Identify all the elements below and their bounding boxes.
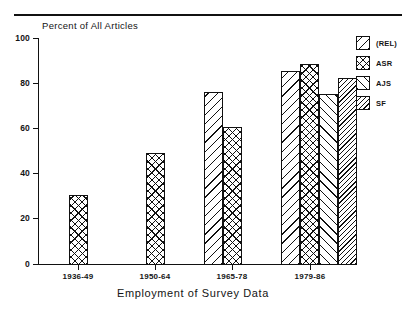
legend-label-sf: SF (376, 99, 386, 108)
x-axis-title: Employment of Survey Data (38, 287, 348, 299)
x-tick-label-1936-49: 1936-49 (63, 272, 94, 281)
legend-swatch-rel-icon (356, 36, 370, 50)
y-tick-60 (33, 128, 39, 129)
y-tick-label-80: 80 (6, 78, 30, 88)
y-axis-line (38, 38, 39, 265)
bar-1979-86-rel (281, 71, 300, 265)
legend-swatch-asr-icon (356, 56, 370, 70)
x-tick-label-1979-86: 1979-86 (295, 272, 326, 281)
y-tick-100 (33, 38, 39, 39)
y-tick-label-0: 0 (6, 259, 30, 269)
top-rule-divider (14, 14, 402, 16)
legend-label-ajs: AJS (376, 79, 391, 88)
chart-title: Percent of All Articles (42, 20, 138, 31)
y-tick-40 (33, 173, 39, 174)
x-tick-label-1950-64: 1950-64 (140, 272, 171, 281)
bar-1979-86-asr (300, 64, 319, 265)
bar-1965-78-asr (223, 127, 242, 265)
y-tick-label-20: 20 (6, 213, 30, 223)
legend-label-rel: (REL) (376, 39, 397, 48)
legend-swatch-ajs-icon (356, 76, 370, 90)
bar-1979-86-sf (338, 78, 357, 265)
bar-chart-figure: Percent of All Articles 100 80 60 40 20 … (0, 0, 416, 316)
bar-1936-49-asr (69, 195, 88, 265)
x-tick-label-1965-78: 1965-78 (217, 272, 248, 281)
bar-1965-78-rel (204, 92, 223, 265)
bar-1950-64-asr (146, 153, 165, 265)
legend-swatch-sf-icon (356, 96, 370, 110)
y-tick-label-40: 40 (6, 168, 30, 178)
y-tick-80 (33, 83, 39, 84)
bar-1979-86-ajs (319, 94, 338, 265)
y-tick-label-100: 100 (6, 33, 30, 43)
y-tick-20 (33, 218, 39, 219)
legend-label-asr: ASR (376, 59, 392, 68)
y-tick-label-60: 60 (6, 123, 30, 133)
